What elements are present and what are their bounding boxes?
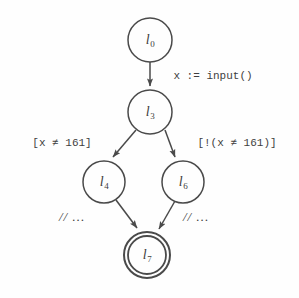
edge-l3-to-l6: [165, 130, 175, 157]
node-l7-outer-ring[interactable]: [124, 232, 170, 278]
edges-layer: [113, 62, 175, 229]
edge-l4-to-l7: [116, 200, 137, 228]
node-l3[interactable]: [128, 90, 172, 134]
diagram-canvas: [0, 0, 299, 298]
nodes-layer: [83, 18, 204, 278]
edge-l3-to-l4: [113, 130, 136, 157]
node-l6[interactable]: [162, 161, 204, 203]
node-l0[interactable]: [128, 18, 172, 62]
edge-l6-to-l7: [159, 201, 175, 229]
control-flow-graph-diagram: l0 l3 l4 l6 l7 x := input() [x ≠ 161] [!…: [0, 0, 299, 298]
node-l4[interactable]: [83, 161, 125, 203]
